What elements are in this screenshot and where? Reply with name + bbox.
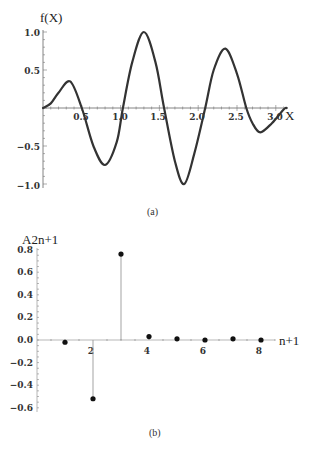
chart-b-ytick: −0.6 [10,403,33,413]
data-point [118,252,123,257]
chart-b-ytick: 0.4 [17,290,33,300]
data-point [202,337,207,342]
data-point [90,396,95,401]
chart-a: 1.0 0.5 −0.5 −1.0 0.5 1.0 1.5 2.0 2.5 3.… [17,10,295,191]
chart-a-x-label: X [285,108,295,123]
chart-a-ytick: 1.0 [24,28,40,38]
chart-b-ytick: −0.2 [10,358,33,368]
chart-b-ytick: 0.0 [17,335,33,345]
data-point [62,340,67,345]
chart-b-minor-ticks [37,250,275,408]
data-point [146,334,151,339]
chart-b-x-label: n+1 [279,333,299,348]
chart-b-xtick: 4 [144,346,150,356]
caption-a: (a) [147,206,158,217]
chart-b-stems [62,252,263,402]
chart-a-xtick: 2.5 [228,112,244,122]
data-point [174,336,179,341]
chart-a-ytick: −1.0 [17,181,40,191]
data-point [230,336,235,341]
chart-b-xtick: 8 [256,346,262,356]
caption-b: (b) [149,427,161,438]
chart-b: 0.8 0.6 0.4 0.2 0.0 −0.2 −0.4 −0.6 2 4 6… [10,232,300,413]
chart-a-ytick: 0.5 [24,66,40,76]
figure: 1.0 0.5 −0.5 −1.0 0.5 1.0 1.5 2.0 2.5 3.… [0,0,315,452]
data-point [258,337,263,342]
chart-a-ytick: −0.5 [17,142,40,152]
chart-a-y-label: f(X) [40,10,62,25]
chart-a-xtick: 1.5 [150,112,166,122]
chart-b-xtick: 6 [200,346,206,356]
chart-b-ytick: −0.4 [10,380,33,390]
chart-b-y-label: A2n+1 [22,232,58,247]
chart-b-ytick: 0.6 [17,267,33,277]
chart-b-ytick: 0.2 [17,312,33,322]
